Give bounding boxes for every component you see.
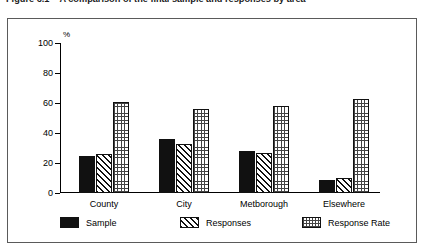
bar	[256, 153, 272, 194]
bar-group: County	[79, 43, 129, 193]
y-axis-tick	[55, 43, 60, 44]
y-axis-tick-label: 20	[43, 158, 53, 168]
y-axis-tick	[55, 103, 60, 104]
plot-area: % 020406080100 CountyCityMetboroughElsew…	[60, 43, 380, 193]
chart-frame: % 020406080100 CountyCityMetboroughElsew…	[7, 18, 417, 243]
x-axis-category-label: Elsewhere	[323, 199, 365, 209]
y-axis-tick	[55, 163, 60, 164]
y-axis-tick-label: 100	[38, 38, 53, 48]
bar	[113, 102, 129, 194]
bar	[273, 106, 289, 193]
bar	[79, 156, 95, 194]
bar	[319, 180, 335, 194]
figure-caption: Figure 6.1A comparison of the final samp…	[6, 0, 418, 8]
bar-group: City	[159, 43, 209, 193]
bar-group: Elsewhere	[319, 43, 369, 193]
y-axis-tick	[55, 133, 60, 134]
bar	[176, 144, 192, 194]
legend-item: Sample	[60, 217, 180, 228]
chart-legend: SampleResponsesResponse Rate	[60, 217, 390, 228]
bar-group: Metborough	[239, 43, 289, 193]
y-axis-tick-label: 80	[43, 68, 53, 78]
y-axis-tick	[55, 193, 60, 194]
y-axis-line	[60, 43, 61, 193]
legend-swatch	[60, 217, 79, 228]
y-axis-tick	[55, 73, 60, 74]
legend-item: Response Rate	[302, 217, 390, 228]
figure-number: Figure 6.1	[6, 0, 49, 4]
y-axis-unit-label: %	[63, 30, 70, 39]
y-axis-tick-label: 0	[48, 188, 53, 198]
legend-label: Responses	[206, 218, 251, 228]
y-axis-tick-label: 60	[43, 98, 53, 108]
bar	[336, 178, 352, 193]
bar	[239, 151, 255, 193]
x-axis-category-label: County	[90, 199, 119, 209]
legend-swatch	[180, 217, 199, 228]
bar	[193, 109, 209, 193]
y-axis-tick-label: 40	[43, 128, 53, 138]
legend-label: Sample	[86, 218, 117, 228]
figure-caption-text: A comparison of the final sample and res…	[59, 0, 305, 4]
x-axis-category-label: Metborough	[240, 199, 288, 209]
bar	[353, 99, 369, 194]
bar	[96, 154, 112, 193]
bar	[159, 139, 175, 193]
legend-item: Responses	[180, 217, 302, 228]
legend-label: Response Rate	[328, 218, 390, 228]
x-axis-category-label: City	[176, 199, 192, 209]
legend-swatch	[302, 217, 321, 228]
